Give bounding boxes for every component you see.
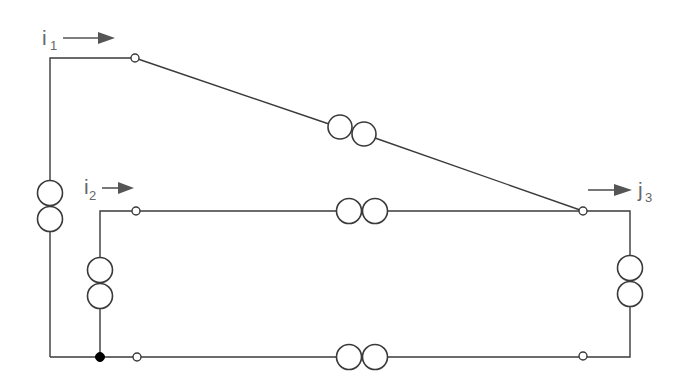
branch-middle bbox=[136, 199, 583, 224]
arrow-right-icon bbox=[102, 182, 134, 194]
current-i1: i 1 bbox=[42, 26, 115, 53]
arrow-right-icon bbox=[588, 184, 632, 196]
current-j3: j 3 bbox=[588, 178, 652, 205]
node-bottom-junction bbox=[96, 353, 105, 362]
current-symbol: i bbox=[84, 175, 89, 198]
branch-bottom bbox=[50, 345, 583, 370]
node-mid-left bbox=[132, 207, 140, 215]
branch-left-inner bbox=[88, 211, 137, 357]
current-subscript: 1 bbox=[50, 38, 57, 53]
current-subscript: 2 bbox=[89, 188, 96, 203]
node-bottom-left bbox=[133, 353, 141, 361]
branch-diagonal bbox=[135, 58, 583, 211]
transformer-icon bbox=[337, 199, 388, 224]
transformer-icon bbox=[88, 258, 113, 309]
branch-left-outer bbox=[38, 58, 136, 357]
circuit-diagram: i 1 i 2 j 3 bbox=[0, 0, 685, 381]
arrow-right-icon bbox=[63, 32, 115, 44]
node-top bbox=[131, 54, 139, 62]
branch-right bbox=[583, 211, 643, 357]
current-subscript: 3 bbox=[645, 190, 652, 205]
node-bottom-right bbox=[579, 352, 587, 360]
transformer-icon bbox=[38, 181, 63, 232]
node-mid-right bbox=[579, 207, 587, 215]
current-i2: i 2 bbox=[84, 175, 134, 203]
current-symbol: j bbox=[637, 178, 643, 201]
transformer-icon bbox=[618, 256, 643, 307]
transformer-icon bbox=[328, 115, 376, 146]
transformer-icon bbox=[337, 345, 388, 370]
current-symbol: i bbox=[42, 26, 47, 49]
